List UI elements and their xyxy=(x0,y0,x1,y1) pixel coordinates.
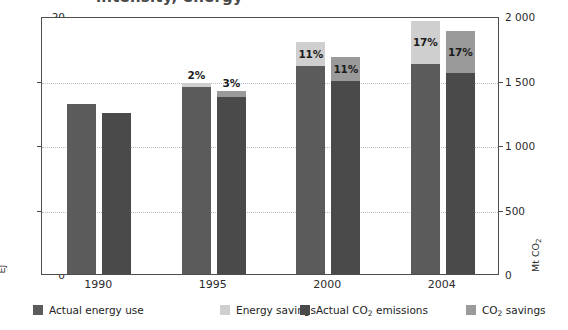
bar-energy-2004-body xyxy=(411,64,440,274)
chart-title-text: intensity, energy xyxy=(96,0,243,6)
legend-item-label: Actual CO2 emissions xyxy=(316,304,428,316)
y-tick-mark-right xyxy=(499,211,503,212)
bar-co2-1990 xyxy=(102,113,131,274)
bar-co2-2000-body xyxy=(331,81,360,275)
bar-co2-1995-body xyxy=(217,97,246,274)
bar-energy-2004: 17% xyxy=(411,21,440,274)
bar-energy-1990 xyxy=(67,104,96,274)
legend-item-label: Actual energy use xyxy=(49,304,144,316)
y-tick-right-1500: 1 500 xyxy=(505,77,535,88)
chart-legend: Actual energy useEnergy savingsActual CO… xyxy=(0,304,568,326)
plot-inner: 2%3%11%11%17%17% xyxy=(42,18,498,274)
bar-co2-1995: 3% xyxy=(217,91,246,274)
plot-area: 2%3%11%11%17%17% xyxy=(41,17,499,275)
bar-energy-1995-percent-label: 2% xyxy=(182,70,211,81)
bar-energy-1990-body xyxy=(67,104,96,274)
x-tick-2004: 2004 xyxy=(402,279,482,290)
bar-energy-2000-body xyxy=(296,66,325,274)
bar-co2-1990-body xyxy=(102,113,131,274)
bar-co2-1995-percent-label: 3% xyxy=(217,78,246,89)
chart-title-clipped: intensity, energy xyxy=(0,0,568,11)
bar-co2-2004: 17% xyxy=(446,31,475,274)
y-axis-left-title: EJ xyxy=(0,265,6,274)
x-tick-1995: 1995 xyxy=(173,279,253,290)
y-tick-right-500: 500 xyxy=(505,206,525,217)
legend-swatch-icon xyxy=(466,305,476,315)
y-tick-mark-right xyxy=(499,82,503,83)
x-tick-1990: 1990 xyxy=(58,279,138,290)
bar-energy-1995: 2% xyxy=(182,83,211,274)
y-axis-right-title-main: Mt CO xyxy=(530,243,541,272)
y-axis-right-title-sub: 2 xyxy=(535,238,543,242)
bar-co2-2000: 11% xyxy=(331,57,360,274)
legend-item-label: CO2 savings xyxy=(482,304,546,316)
legend-swatch-icon xyxy=(300,305,310,315)
y-tick-mark-right xyxy=(499,146,503,147)
legend-actual-energy-use[interactable]: Actual energy use xyxy=(33,304,144,316)
legend-swatch-icon xyxy=(220,305,230,315)
y-tick-right-1000: 1 000 xyxy=(505,141,535,152)
bar-energy-1995-body xyxy=(182,87,211,274)
y-tick-right-0: 0 xyxy=(505,270,512,281)
bar-co2-2004-percent-label: 17% xyxy=(446,47,475,58)
bar-co2-2004-body xyxy=(446,73,475,274)
y-axis-right-title: Mt CO2 xyxy=(531,238,541,272)
bar-energy-2000-percent-label: 11% xyxy=(296,49,325,60)
legend-co2-savings[interactable]: CO2 savings xyxy=(466,304,546,316)
y-tick-right-2000: 2 000 xyxy=(505,12,535,23)
legend-actual-co2-emissions[interactable]: Actual CO2 emissions xyxy=(300,304,428,316)
bar-energy-2004-percent-label: 17% xyxy=(411,37,440,48)
legend-swatch-icon xyxy=(33,305,43,315)
x-tick-2000: 2000 xyxy=(287,279,367,290)
bar-energy-2000: 11% xyxy=(296,42,325,274)
bar-co2-2000-percent-label: 11% xyxy=(331,64,360,75)
chart-figure: intensity, energy 05101520 05001 0001 50… xyxy=(0,0,568,330)
